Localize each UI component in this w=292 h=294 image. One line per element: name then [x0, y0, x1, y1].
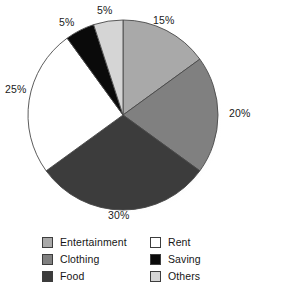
slice-value-label-saving: 5% [59, 17, 75, 28]
chart-legend: Entertainment Rent Clothing Saving Food … [42, 234, 257, 285]
pie-chart-figure: 5% 5% 15% 20% 30% 25% Entertainment Rent… [0, 0, 292, 294]
slice-value-label-clothing: 20% [229, 108, 251, 119]
legend-label-saving: Saving [168, 254, 201, 265]
legend-label-clothing: Clothing [60, 254, 99, 265]
legend-item-food: Food [42, 268, 150, 285]
legend-item-rent: Rent [150, 234, 250, 251]
legend-swatch-clothing [42, 254, 53, 265]
slice-value-label-food: 30% [108, 210, 130, 221]
legend-swatch-saving [150, 254, 161, 265]
legend-item-others: Others [150, 268, 250, 285]
legend-swatch-others [150, 271, 161, 282]
slice-value-label-rent: 25% [5, 84, 27, 95]
legend-item-saving: Saving [150, 251, 250, 268]
pie-slice-group [28, 20, 218, 210]
legend-label-others: Others [168, 271, 200, 282]
slice-value-label-others: 5% [97, 5, 113, 16]
legend-swatch-entertainment [42, 237, 53, 248]
legend-swatch-food [42, 271, 53, 282]
pie-plot-area: 5% 5% 15% 20% 30% 25% [0, 0, 292, 226]
legend-label-rent: Rent [168, 237, 191, 248]
legend-label-food: Food [60, 271, 84, 282]
legend-label-entertainment: Entertainment [60, 237, 127, 248]
legend-swatch-rent [150, 237, 161, 248]
legend-item-clothing: Clothing [42, 251, 150, 268]
slice-value-label-entertainment: 15% [153, 15, 175, 26]
legend-item-entertainment: Entertainment [42, 234, 150, 251]
